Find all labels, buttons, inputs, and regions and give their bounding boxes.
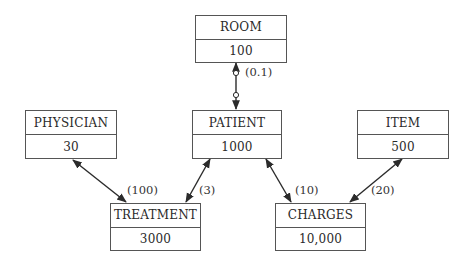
entity-physician: PHYSICIAN 30 (25, 110, 117, 159)
entity-name: CHARGES (276, 204, 365, 228)
entity-count: 1000 (193, 135, 281, 158)
cardinality-label-patient-treatment: (3) (199, 183, 215, 197)
entity-name: TREATMENT (111, 204, 200, 228)
entity-name: PHYSICIAN (26, 111, 116, 135)
entity-treatment: TREATMENT 3000 (110, 203, 201, 251)
entity-charges: CHARGES 10,000 (275, 203, 366, 251)
entity-patient: PATIENT 1000 (192, 110, 282, 159)
entity-item: ITEM 500 (357, 110, 449, 159)
link-physician-treatment (73, 160, 126, 202)
link-patient-charges (266, 159, 291, 202)
cardinality-label-physician-treatment: (100) (127, 183, 158, 197)
cardinality-label-room-patient: (0.1) (245, 65, 272, 79)
entity-room: ROOM 100 (195, 15, 287, 63)
entity-name: PATIENT (193, 111, 281, 135)
entity-count: 500 (358, 135, 448, 158)
optional-circle-icon (233, 92, 238, 97)
link-room-patient (233, 63, 238, 109)
entity-name: ITEM (358, 111, 448, 135)
entity-count: 30 (26, 135, 116, 158)
entity-count: 10,000 (276, 228, 365, 251)
optional-circle-icon (233, 70, 238, 75)
cardinality-label-item-charges: (20) (371, 183, 395, 197)
entity-count: 100 (196, 40, 286, 63)
entity-name: ROOM (196, 16, 286, 40)
cardinality-label-patient-charges: (10) (295, 183, 319, 197)
entity-count: 3000 (111, 228, 200, 251)
